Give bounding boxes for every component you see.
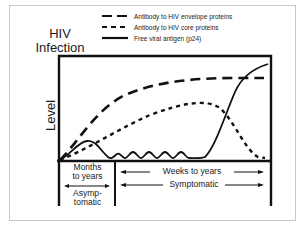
series-core-antibody <box>60 103 265 160</box>
late-duration-label: Weeks to years <box>150 167 234 176</box>
early-status-label: Asymp- tomatic <box>62 189 113 207</box>
early-status-line-2: tomatic <box>62 198 113 207</box>
series-envelope-antibody <box>60 78 264 160</box>
late-status-label: Symptomatic <box>163 180 225 189</box>
early-duration-label: Months to years <box>62 163 113 181</box>
chart-plot <box>0 0 302 232</box>
early-duration-line-2: to years <box>62 172 113 181</box>
